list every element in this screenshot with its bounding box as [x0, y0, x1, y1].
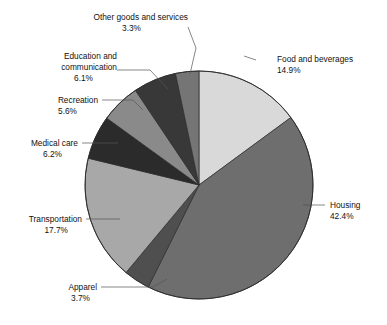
slice-label-food-pct: 14.9%: [277, 65, 301, 75]
slice-label-other-pct: 3.3%: [122, 23, 142, 33]
slice-label-food-name: Food and beverages: [277, 54, 353, 64]
slice-label-education-name2: communication: [61, 62, 117, 72]
pie-slices-group: [85, 71, 313, 299]
slice-label-apparel-pct: 3.7%: [71, 293, 91, 303]
slice-label-recreation-pct: 5.6%: [58, 106, 78, 116]
slice-label-recreation-name: Recreation: [58, 95, 99, 105]
slice-label-education-pct: 6.1%: [74, 73, 94, 83]
slice-label-housing-pct: 42.4%: [330, 211, 354, 221]
pie-chart-figure: Food and beverages 14.9% Housing 42.4% A…: [0, 0, 387, 325]
leader-line-other-goods-and-services: [188, 27, 196, 74]
slice-label-other-name: Other goods and services: [93, 12, 188, 22]
slice-label-education-name: Education and: [64, 51, 117, 61]
slice-label-medical-name: Medical care: [31, 138, 78, 148]
pie-chart-svg: Food and beverages 14.9% Housing 42.4% A…: [0, 0, 387, 325]
slice-label-medical-pct: 6.2%: [43, 149, 63, 159]
slice-label-housing-name: Housing: [330, 200, 361, 210]
slice-label-transportation-pct: 17.7%: [44, 225, 68, 235]
slice-label-apparel-name: Apparel: [68, 282, 97, 292]
leader-line-food-and-beverages: [244, 56, 256, 60]
slice-label-transportation-name: Transportation: [29, 214, 83, 224]
